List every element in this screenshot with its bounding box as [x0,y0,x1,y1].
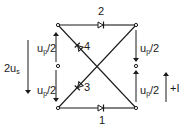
top-branch [58,22,136,29]
left-upper-voltage-label: up/2 [37,42,56,56]
node-bottom-right [134,106,137,109]
node-mid-left [56,64,59,67]
left-lower-voltage-label: up/2 [37,84,56,98]
current-label: +I [170,82,179,94]
diode-4-label: 4 [84,40,90,52]
right-lower-voltage-label: up/2 [140,84,159,98]
right-upper-voltage-label: up/2 [140,42,159,56]
diode-2-label: 2 [98,5,104,17]
node-top-right [134,23,137,26]
diode-2-icon [98,22,104,29]
node-bottom-left [56,106,59,109]
bottom-branch [58,105,136,112]
source-voltage-label: 2us [4,62,20,75]
diode-1-icon [98,105,104,112]
diode-1-label: 1 [99,114,105,126]
node-mid-right [134,64,137,67]
bridge-circuit-diagram: 2 1 4 3 up/2 up/2 2us up/2 up/2 +I [0,0,184,130]
node-top-left [56,23,59,26]
diode-3-label: 3 [84,81,90,93]
